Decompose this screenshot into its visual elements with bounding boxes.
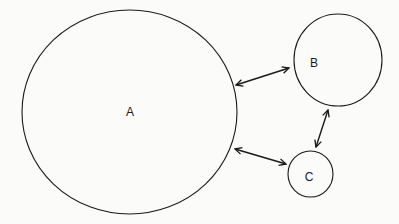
label-a: A	[126, 105, 134, 119]
node-c: C	[288, 151, 333, 197]
arrow-a-c-icon	[235, 149, 286, 164]
arrow-b-c-icon	[316, 110, 328, 147]
node-a: A	[22, 10, 237, 214]
diagram-canvas: A B C	[0, 0, 399, 224]
label-b: B	[310, 56, 318, 70]
circle-b	[294, 14, 382, 106]
node-b: B	[294, 14, 382, 106]
arrow-a-b-icon	[236, 68, 289, 85]
label-c: C	[305, 170, 314, 184]
